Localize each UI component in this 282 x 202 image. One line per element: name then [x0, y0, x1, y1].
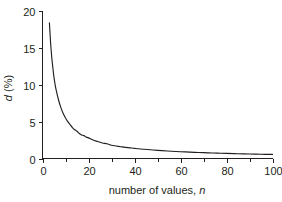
- y-tick-label: 5: [29, 117, 35, 129]
- y-tick-label: 0: [29, 154, 35, 166]
- x-tick-label: 40: [129, 165, 141, 177]
- chart-plot-area: 05101520 020406080100 number of values, …: [0, 0, 282, 202]
- y-tick-label: 10: [23, 80, 35, 92]
- x-tick-label: 80: [221, 165, 233, 177]
- x-tick-label: 0: [40, 165, 46, 177]
- x-tick-label: 100: [264, 165, 282, 177]
- x-tick-label: 60: [175, 165, 187, 177]
- x-axis-title: number of values, n: [109, 184, 206, 196]
- y-tick-label: 15: [23, 43, 35, 55]
- x-tick-label: 20: [83, 165, 95, 177]
- y-tick-label: 20: [23, 6, 35, 18]
- chart-figure: 05101520 020406080100 number of values, …: [0, 0, 282, 202]
- y-axis-title: d (%): [2, 75, 14, 101]
